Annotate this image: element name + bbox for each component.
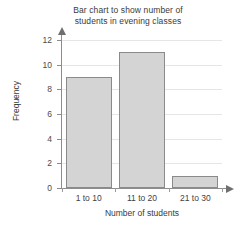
y-axis-arrow-icon (58, 27, 66, 35)
y-axis-tick (57, 139, 62, 140)
y-axis-tick (57, 114, 62, 115)
y-axis-tick-label: 4 (30, 135, 52, 143)
chart-title: Bar chart to show number of students in … (28, 5, 228, 27)
y-axis-tick (57, 40, 62, 41)
x-axis-arrow-icon (226, 185, 234, 193)
y-axis-tick (57, 65, 62, 66)
y-axis-tick-label: 10 (30, 61, 52, 69)
y-axis-tick-label: 8 (30, 85, 52, 93)
x-axis-tick (115, 188, 116, 192)
x-axis-tick (169, 188, 170, 192)
y-axis-tick (57, 163, 62, 164)
y-axis-tick (57, 89, 62, 90)
bar (172, 176, 218, 188)
bar (66, 77, 112, 188)
y-axis-title: Frequency (11, 56, 21, 146)
chart-title-line-2: students in evening classes (28, 16, 228, 27)
y-axis-tick-label: 2 (30, 159, 52, 167)
bar-chart: Bar chart to show number of students in … (0, 0, 245, 235)
x-axis-tick (62, 188, 63, 192)
gridline (62, 40, 222, 41)
y-axis-tick-label: 12 (30, 36, 52, 44)
y-axis-tick-label: 0 (30, 184, 52, 192)
x-axis-category-label: 21 to 30 (164, 193, 226, 203)
x-axis-tick (222, 188, 223, 192)
x-axis-title: Number of students (62, 208, 222, 218)
y-axis-tick-label: 6 (30, 110, 52, 118)
bar (119, 52, 165, 188)
chart-title-line-1: Bar chart to show number of (28, 5, 228, 16)
x-axis-line (62, 188, 227, 189)
